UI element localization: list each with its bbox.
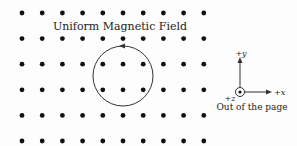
field-dot — [100, 62, 105, 67]
field-dot — [181, 113, 186, 118]
field-dot — [40, 11, 45, 16]
field-dot — [100, 87, 105, 92]
field-dot — [60, 62, 65, 67]
field-dot — [40, 36, 45, 41]
field-dot — [40, 62, 45, 67]
loop-circle — [93, 46, 153, 106]
field-dot — [161, 139, 166, 144]
field-dot — [121, 113, 126, 118]
field-dot — [141, 11, 146, 16]
field-dot — [60, 11, 65, 16]
field-dot — [20, 11, 25, 16]
field-dot — [20, 139, 25, 144]
field-dot — [80, 87, 85, 92]
field-dot — [60, 113, 65, 118]
field-dot — [60, 36, 65, 41]
field-dot — [20, 62, 25, 67]
z-axis-dot-icon — [238, 90, 241, 93]
field-dot — [80, 62, 85, 67]
field-dot — [100, 139, 105, 144]
field-dot — [80, 11, 85, 16]
field-dot — [121, 62, 126, 67]
field-dot — [161, 113, 166, 118]
field-dot — [60, 139, 65, 144]
field-dot — [201, 113, 206, 118]
field-dot — [201, 87, 206, 92]
diagram-title: Uniform Magnetic Field — [53, 20, 187, 33]
field-dot — [201, 139, 206, 144]
field-dot — [100, 36, 105, 41]
diagram-canvas: Uniform Magnetic Field +y +x +z Out of t… — [0, 0, 297, 146]
field-dot — [141, 139, 146, 144]
y-axis-label: +y — [235, 49, 247, 58]
field-dot — [40, 113, 45, 118]
field-dot — [141, 36, 146, 41]
field-dot — [181, 62, 186, 67]
field-dot — [141, 87, 146, 92]
field-dot — [80, 36, 85, 41]
counterclockwise-arrow-icon — [119, 44, 125, 49]
field-dot — [161, 62, 166, 67]
field-dot — [121, 87, 126, 92]
field-dot — [20, 36, 25, 41]
field-dot — [181, 36, 186, 41]
field-dot — [20, 113, 25, 118]
axes-legend: +y +x +z Out of the page — [216, 45, 297, 115]
x-axis-label: +x — [274, 88, 286, 97]
magnetic-field-diagram: Uniform Magnetic Field +y +x +z Out of t… — [0, 0, 297, 146]
field-dot — [201, 62, 206, 67]
field-dot — [161, 36, 166, 41]
field-dot — [161, 11, 166, 16]
field-dot — [80, 139, 85, 144]
field-dot — [201, 11, 206, 16]
field-dot — [60, 87, 65, 92]
field-dot — [121, 36, 126, 41]
field-dot — [161, 87, 166, 92]
field-dot — [181, 11, 186, 16]
field-direction-label: Out of the page — [216, 102, 287, 112]
field-dot — [141, 113, 146, 118]
current-loop — [93, 44, 153, 107]
field-dot — [80, 113, 85, 118]
field-dot — [141, 62, 146, 67]
field-dot — [40, 87, 45, 92]
field-dot — [121, 139, 126, 144]
field-dot — [181, 87, 186, 92]
field-dot — [40, 139, 45, 144]
field-dot — [100, 11, 105, 16]
field-dot — [20, 87, 25, 92]
field-dot — [121, 11, 126, 16]
field-dot — [201, 36, 206, 41]
field-dot — [181, 139, 186, 144]
field-dot — [100, 113, 105, 118]
